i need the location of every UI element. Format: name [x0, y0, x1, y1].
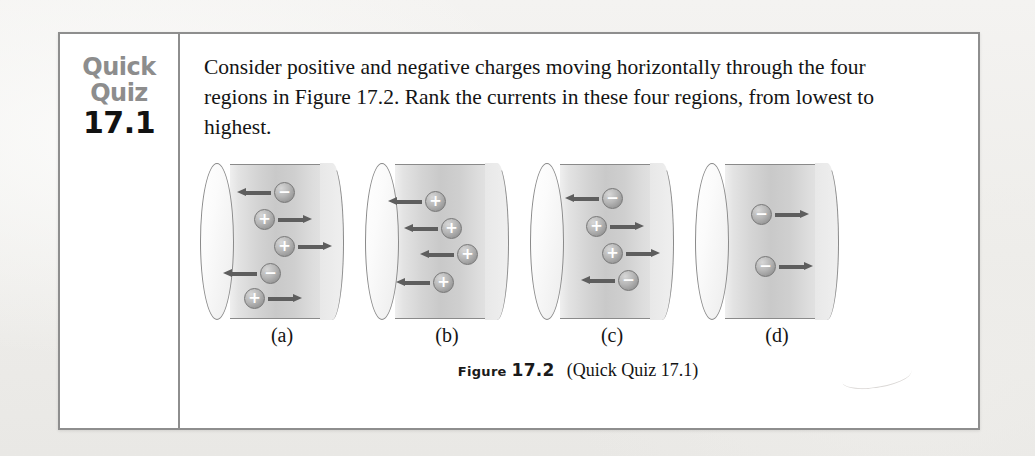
- negative-charge: −: [602, 188, 623, 209]
- arrow-shaft: [404, 281, 430, 285]
- quick-quiz-word-quick: Quick: [60, 54, 178, 80]
- velocity-arrow-left: [396, 278, 430, 287]
- cylinder: −++−+: [216, 164, 348, 319]
- arrow-shaft: [775, 213, 801, 217]
- velocity-arrow-left: [223, 269, 257, 278]
- arrow-head: [237, 188, 246, 196]
- cylinder-row: −++−+(a)++++(b)−++−(c)−−(d): [204, 164, 952, 349]
- minus-sign: −: [275, 183, 294, 202]
- velocity-arrow-right: [779, 262, 813, 271]
- negative-charge: −: [618, 270, 639, 291]
- arrow-shaft: [779, 265, 805, 269]
- plus-sign: +: [587, 217, 606, 236]
- minus-sign: −: [752, 205, 771, 224]
- region-b: ++++(b): [381, 164, 513, 349]
- quiz-prompt-text: Consider positive and negative charges m…: [204, 52, 884, 142]
- minus-sign: −: [756, 257, 775, 276]
- negative-charge: −: [260, 263, 281, 284]
- velocity-arrow-left: [404, 224, 438, 233]
- arrow-shaft: [573, 197, 599, 201]
- arrow-head: [293, 294, 302, 302]
- arrow-head: [800, 210, 809, 218]
- velocity-arrow-left: [388, 197, 422, 206]
- arrow-shaft: [412, 227, 438, 231]
- charge-layer: −++−+: [216, 164, 348, 319]
- plus-sign: +: [603, 244, 622, 263]
- negative-charge: −: [751, 204, 772, 225]
- positive-charge: +: [425, 191, 446, 212]
- region-label: (b): [381, 324, 513, 347]
- plus-sign: +: [255, 210, 274, 229]
- positive-charge: +: [274, 236, 295, 257]
- cylinder: −−: [711, 164, 843, 319]
- velocity-arrow-left: [581, 276, 615, 285]
- arrow-shaft: [278, 218, 304, 222]
- positive-charge: +: [457, 244, 478, 265]
- velocity-arrow-right: [610, 222, 644, 231]
- arrow-head: [651, 249, 660, 257]
- quick-quiz-number: 17.1: [60, 107, 178, 139]
- velocity-arrow-right: [298, 242, 332, 251]
- quick-quiz-content-column: Consider positive and negative charges m…: [180, 34, 978, 428]
- velocity-arrow-left: [565, 194, 599, 203]
- plus-sign: +: [458, 245, 477, 264]
- positive-charge: +: [254, 209, 275, 230]
- arrow-head: [404, 224, 413, 232]
- negative-charge: −: [755, 256, 776, 277]
- arrow-head: [581, 276, 590, 284]
- figure-17-2: −++−+(a)++++(b)−++−(c)−−(d) Figure 17.2(…: [204, 164, 952, 394]
- arrow-head: [804, 262, 813, 270]
- figure-label: Figure 17.2: [458, 364, 555, 379]
- plus-sign: +: [442, 219, 461, 238]
- minus-sign: −: [619, 271, 638, 290]
- arrow-head: [223, 269, 232, 277]
- charge-layer: −++−: [546, 164, 678, 319]
- minus-sign: −: [603, 189, 622, 208]
- quick-quiz-box: Quick Quiz 17.1 Consider positive and ne…: [58, 32, 980, 430]
- plus-sign: +: [426, 192, 445, 211]
- charge-layer: ++++: [381, 164, 513, 319]
- region-a: −++−+(a): [216, 164, 348, 349]
- velocity-arrow-right: [268, 294, 302, 303]
- arrow-head: [323, 242, 332, 250]
- velocity-arrow-left: [237, 188, 271, 197]
- arrow-shaft: [428, 253, 454, 257]
- quick-quiz-word-quiz: Quiz: [60, 80, 178, 106]
- arrow-shaft: [589, 279, 615, 283]
- arrow-shaft: [268, 297, 294, 301]
- figure-caption: Figure 17.2(Quick Quiz 17.1): [204, 360, 952, 381]
- region-label: (d): [711, 324, 843, 347]
- arrow-head: [635, 222, 644, 230]
- arrow-head: [388, 197, 397, 205]
- figure-word: Figure: [458, 364, 507, 379]
- cylinder: ++++: [381, 164, 513, 319]
- plus-sign: +: [245, 289, 264, 308]
- charge-layer: −−: [711, 164, 843, 319]
- velocity-arrow-right: [278, 215, 312, 224]
- figure-reference: (Quick Quiz 17.1): [567, 360, 698, 380]
- positive-charge: +: [441, 218, 462, 239]
- plus-sign: +: [434, 273, 453, 292]
- positive-charge: +: [433, 272, 454, 293]
- arrow-shaft: [396, 200, 422, 204]
- minus-sign: −: [261, 264, 280, 283]
- negative-charge: −: [274, 182, 295, 203]
- velocity-arrow-right: [775, 210, 809, 219]
- quick-quiz-label-column: Quick Quiz 17.1: [60, 34, 180, 428]
- cylinder: −++−: [546, 164, 678, 319]
- positive-charge: +: [244, 288, 265, 309]
- arrow-head: [565, 194, 574, 202]
- velocity-arrow-left: [420, 250, 454, 259]
- arrow-head: [420, 250, 429, 258]
- positive-charge: +: [586, 216, 607, 237]
- arrow-shaft: [231, 272, 257, 276]
- positive-charge: +: [602, 243, 623, 264]
- arrow-shaft: [298, 245, 324, 249]
- region-label: (c): [546, 324, 678, 347]
- plus-sign: +: [275, 237, 294, 256]
- region-label: (a): [216, 324, 348, 347]
- region-c: −++−(c): [546, 164, 678, 349]
- figure-number: 17.2: [512, 360, 555, 380]
- velocity-arrow-right: [626, 249, 660, 258]
- arrow-shaft: [245, 191, 271, 195]
